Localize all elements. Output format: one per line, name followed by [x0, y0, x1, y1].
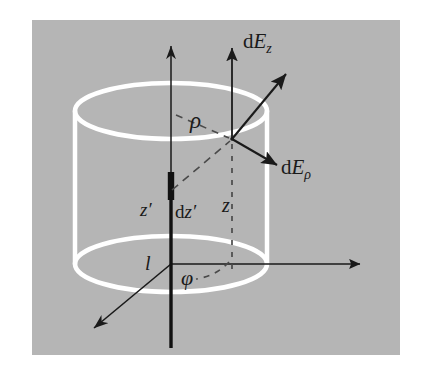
physics-diagram-svg: dEz dEρ ρ z′ dz′ z l φ	[0, 0, 427, 380]
label-phi: φ	[181, 265, 193, 290]
label-z-prime: z′	[139, 199, 152, 220]
label-dz-prime: dz′	[175, 201, 197, 222]
label-length: l	[145, 252, 151, 274]
label-dz-prime-d: d	[175, 201, 185, 222]
label-dErho-d: d	[281, 155, 292, 179]
label-z-field: z	[221, 194, 230, 216]
label-dErho-E: E	[291, 155, 305, 179]
label-dEz-E: E	[253, 29, 267, 53]
field-observation-point	[230, 137, 234, 141]
label-dErho-sub: ρ	[303, 167, 311, 182]
label-dEz-sub: z	[265, 41, 272, 56]
label-dEz-d: d	[243, 29, 254, 53]
figure-root: dEz dEρ ρ z′ dz′ z l φ	[0, 0, 427, 380]
label-rho: ρ	[189, 108, 201, 133]
diagram-panel	[32, 20, 400, 355]
